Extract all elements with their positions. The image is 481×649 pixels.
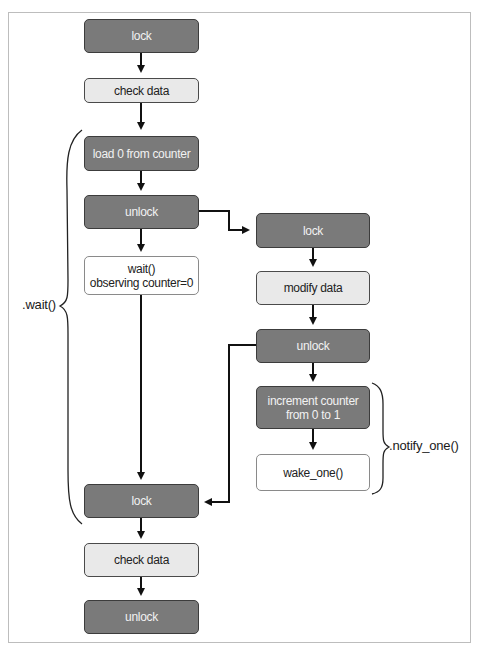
arrow-unlock-right-to-lock — [206, 345, 256, 502]
arrow-unlock-to-lock-right — [199, 211, 248, 230]
notify-brace — [372, 383, 389, 494]
node-label: check data — [114, 553, 169, 567]
unlock-node-2: unlock — [84, 600, 199, 634]
node-label: modify data — [284, 281, 343, 295]
check-data-node-2: check data — [84, 543, 199, 577]
connectors — [0, 0, 481, 649]
modify-data-node: modify data — [256, 271, 370, 305]
load-counter-node: load 0 from counter — [84, 136, 199, 171]
node-label: check data — [114, 84, 169, 98]
increment-counter-node: increment counter from 0 to 1 — [256, 386, 370, 429]
lock-node-right: lock — [256, 213, 370, 248]
node-label-line1: increment counter — [268, 394, 359, 408]
lock-node: lock — [84, 19, 199, 53]
node-label: unlock — [297, 339, 330, 353]
node-label-line2: observing counter=0 — [90, 276, 193, 290]
wait-brace — [60, 130, 82, 524]
notify-brace-label: .notify_one() — [389, 438, 459, 453]
node-label-line2: from 0 to 1 — [286, 408, 340, 422]
node-label: lock — [131, 494, 151, 508]
wait-node: wait() observing counter=0 — [84, 256, 199, 295]
unlock-node: unlock — [84, 195, 199, 229]
check-data-node: check data — [84, 78, 199, 103]
node-label: lock — [131, 29, 151, 43]
node-label: load 0 from counter — [93, 147, 191, 161]
lock-node-2: lock — [84, 484, 199, 518]
node-label: wake_one() — [283, 466, 343, 480]
node-label-line1: wait() — [128, 262, 156, 276]
wait-brace-label: .wait() — [22, 297, 56, 312]
node-label: unlock — [125, 205, 158, 219]
wake-one-node: wake_one() — [256, 454, 370, 491]
unlock-node-right: unlock — [256, 329, 370, 363]
node-label: unlock — [125, 610, 158, 624]
node-label: lock — [303, 224, 323, 238]
